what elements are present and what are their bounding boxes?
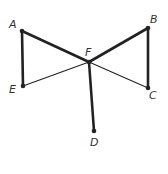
segment-ae [22,31,23,86]
segment-fd [89,62,94,131]
point-label-d: D [90,136,98,149]
point-label-f: F [85,46,92,59]
geometry-diagram: ABCDEF ​ [0,0,168,174]
point-label-b: B [150,13,158,26]
point-label-c: C [149,89,157,102]
point-label-a: A [8,18,17,31]
point-b [146,26,151,31]
segment-af [22,31,89,62]
segment-ef [23,62,89,86]
segment-fb [89,28,148,62]
point-a [20,29,25,34]
point-label-e: E [9,83,16,96]
point-e [21,84,26,89]
point-f [87,60,92,65]
labels-group: ABCDEF [8,13,158,149]
segment-fc [89,62,148,88]
segments-group [22,28,148,131]
point-d [92,129,97,134]
